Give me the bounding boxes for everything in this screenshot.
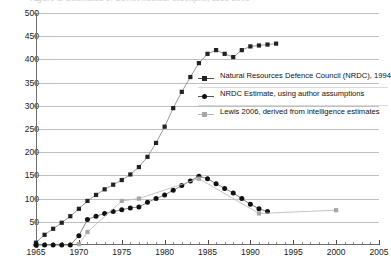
data-point-circle xyxy=(94,214,99,219)
data-point-square xyxy=(94,193,98,197)
legend-square-marker-icon xyxy=(202,76,207,81)
data-point-square xyxy=(197,61,201,65)
data-point-circle xyxy=(68,243,73,248)
data-point-circle xyxy=(205,176,210,181)
series-1 xyxy=(34,174,271,248)
data-point-square xyxy=(77,242,81,246)
x-axis-tick-label: 1990 xyxy=(241,247,260,257)
data-point-square xyxy=(68,214,72,218)
data-point-circle xyxy=(231,191,236,196)
data-point-square xyxy=(274,42,278,46)
data-point-square xyxy=(334,208,338,212)
data-point-square xyxy=(231,55,235,59)
data-point-square xyxy=(163,125,167,129)
data-point-circle xyxy=(214,181,219,186)
x-axis-major-tick xyxy=(379,240,380,245)
data-point-circle xyxy=(162,192,167,197)
data-point-square xyxy=(111,183,115,187)
data-point-square xyxy=(42,233,46,237)
x-axis-tick-label: 2000 xyxy=(327,247,346,257)
data-point-square xyxy=(145,155,149,159)
chart-legend: Natural Resources Defence Council (NRDC)… xyxy=(198,70,388,124)
data-point-square xyxy=(257,211,261,215)
series-line xyxy=(79,179,336,244)
data-point-square xyxy=(85,230,89,234)
data-point-circle xyxy=(222,186,227,191)
data-point-square xyxy=(214,48,218,52)
figure-title: Figure 1. Estimates of Soviet nuclear st… xyxy=(30,0,330,4)
data-point-circle xyxy=(256,206,261,211)
data-point-square xyxy=(128,172,132,176)
x-axis-tick-label: 1995 xyxy=(284,247,303,257)
data-point-square xyxy=(51,227,55,231)
data-point-square xyxy=(223,52,227,56)
x-axis-tick-label: 1970 xyxy=(69,247,88,257)
x-axis-tick-label: 1980 xyxy=(155,247,174,257)
legend-label: Natural Resources Defence Council (NRDC)… xyxy=(220,71,391,80)
data-point-circle xyxy=(145,200,150,205)
data-point-square xyxy=(103,187,107,191)
data-point-square xyxy=(180,90,184,94)
data-point-square xyxy=(85,199,89,203)
legend-item-nrdc-author: NRDC Estimate, using author assumptions xyxy=(198,88,388,106)
data-point-square xyxy=(240,48,244,52)
data-point-square xyxy=(120,178,124,182)
data-point-circle xyxy=(248,202,253,207)
x-axis-tick-label: 1965 xyxy=(27,247,46,257)
data-point-circle xyxy=(128,205,133,210)
data-point-square xyxy=(137,197,141,201)
data-point-circle xyxy=(239,196,244,201)
data-point-square xyxy=(154,141,158,145)
plot-area: 050100150200250300350400450500 196519701… xyxy=(36,13,379,245)
data-point-square xyxy=(205,52,209,56)
legend-square-marker-icon xyxy=(202,112,207,117)
data-point-circle xyxy=(85,217,90,222)
legend-circle-marker-icon xyxy=(202,94,207,99)
x-axis-tick-label: 1985 xyxy=(198,247,217,257)
data-point-circle xyxy=(136,204,141,209)
x-axis-tick-label: 1975 xyxy=(112,247,131,257)
data-point-circle xyxy=(119,207,124,212)
data-point-square xyxy=(188,75,192,79)
data-point-circle xyxy=(51,243,56,248)
data-point-square xyxy=(120,199,124,203)
data-point-circle xyxy=(171,188,176,193)
legend-label: Lewis 2006, derived from intelligence es… xyxy=(220,107,380,116)
data-point-square xyxy=(77,207,81,211)
data-point-square xyxy=(248,44,252,48)
data-point-square xyxy=(60,221,64,225)
data-point-square xyxy=(257,43,261,47)
data-point-circle xyxy=(34,243,39,248)
legend-item-lewis-2006: Lewis 2006, derived from intelligence es… xyxy=(198,106,388,124)
data-point-circle xyxy=(42,243,47,248)
legend-label: NRDC Estimate, using author assumptions xyxy=(220,89,364,98)
data-point-circle xyxy=(76,233,81,238)
x-axis-tick-label: 2005 xyxy=(370,247,389,257)
series-layer xyxy=(36,13,379,245)
series-line xyxy=(36,176,268,245)
legend-item-nrdc-1994: Natural Resources Defence Council (NRDC)… xyxy=(198,70,388,88)
data-point-square xyxy=(197,177,201,181)
data-point-circle xyxy=(59,243,64,248)
data-point-circle xyxy=(154,196,159,201)
data-point-square xyxy=(137,165,141,169)
data-point-square xyxy=(265,42,269,46)
data-point-square xyxy=(171,106,175,110)
